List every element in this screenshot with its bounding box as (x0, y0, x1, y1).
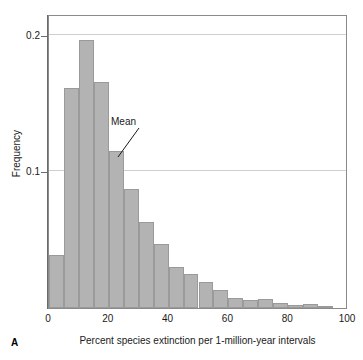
histogram-bar (49, 255, 64, 308)
histogram-bar (139, 222, 154, 308)
x-tick-label: 20 (93, 313, 123, 324)
mean-annotation-label: Mean (111, 116, 136, 127)
y-tick-label: 0.2 (18, 30, 40, 41)
histogram-bar (228, 298, 243, 308)
histogram-bar (199, 282, 214, 308)
y-tick-mark (41, 36, 48, 37)
histogram-bar (154, 244, 169, 308)
x-axis-title: Percent species extinction per 1-million… (48, 335, 347, 346)
histogram-bar (169, 267, 184, 308)
histogram-bars (49, 16, 346, 308)
x-tick-label: 100 (332, 313, 362, 324)
x-tick-label: 40 (153, 313, 183, 324)
histogram-bar (94, 82, 109, 308)
histogram-bar (303, 304, 318, 308)
histogram-bar (64, 88, 79, 308)
y-tick-label: 0.1 (18, 166, 40, 177)
histogram-bar (243, 300, 258, 308)
histogram-bar (318, 306, 333, 308)
panel-letter: A (11, 337, 18, 348)
plot-area (48, 15, 347, 309)
histogram-bar (258, 299, 273, 308)
histogram-bar (109, 151, 124, 308)
x-tick-label: 80 (272, 313, 302, 324)
y-tick-mark (41, 172, 48, 173)
histogram-bar (213, 290, 228, 308)
y-axis-title: Frequency (11, 94, 22, 214)
histogram-bar (79, 40, 94, 308)
x-tick-label: 60 (212, 313, 242, 324)
histogram-bar (184, 274, 199, 308)
histogram-bar (288, 305, 303, 308)
x-tick-label: 0 (33, 313, 63, 324)
figure-panel: Frequency 0.10.2 020406080100 Percent sp… (0, 0, 363, 360)
histogram-bar (273, 303, 288, 308)
histogram-bar (124, 189, 139, 308)
